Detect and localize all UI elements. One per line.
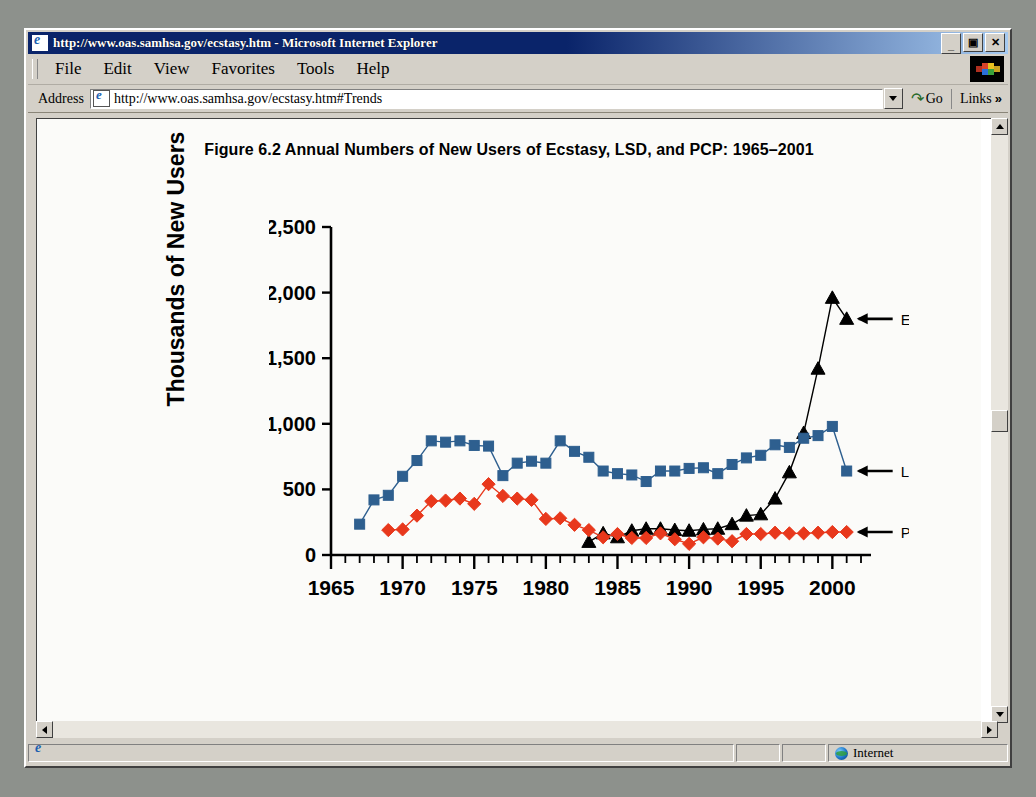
menu-drag-handle[interactable] <box>32 59 38 79</box>
menu-item-file[interactable]: File <box>44 57 92 81</box>
svg-text:2,000: 2,000 <box>269 282 316 304</box>
links-label: Links <box>960 91 992 107</box>
internet-explorer-icon <box>31 34 49 52</box>
chart-svg: 05001,0001,5002,0002,5001965197019751980… <box>269 219 909 619</box>
vertical-scroll-track[interactable] <box>991 135 1008 706</box>
svg-text:1,500: 1,500 <box>269 347 316 369</box>
y-axis-title: Thousands of New Users <box>163 119 190 419</box>
address-label: Address <box>28 91 90 107</box>
arrow-up-icon <box>996 124 1004 129</box>
go-label: Go <box>926 91 943 107</box>
window-title: http://www.oas.samhsa.gov/ecstasy.htm - … <box>53 35 941 51</box>
svg-text:1980: 1980 <box>523 576 570 599</box>
status-pane-3 <box>782 744 826 762</box>
page-viewport: Figure 6.2 Annual Numbers of New Users o… <box>36 118 998 723</box>
svg-text:500: 500 <box>283 478 316 500</box>
restore-button[interactable]: ▣ <box>963 33 983 52</box>
svg-text:1965: 1965 <box>308 576 355 599</box>
scroll-left-button[interactable] <box>36 721 53 738</box>
menu-item-tools[interactable]: Tools <box>286 57 346 81</box>
menu-item-view[interactable]: View <box>143 57 201 81</box>
svg-text:PCP: PCP <box>901 524 909 541</box>
svg-text:1970: 1970 <box>379 576 426 599</box>
status-bar: Internet <box>28 742 1008 764</box>
status-pane-2 <box>736 744 780 762</box>
arrow-down-icon <box>996 712 1004 717</box>
svg-text:2,500: 2,500 <box>269 219 316 238</box>
scroll-right-button[interactable] <box>981 721 998 738</box>
browser-logo-animation <box>970 56 1004 82</box>
chart-series-labels: EcstasyLSDPCP <box>857 311 909 541</box>
window-controls: _ ▣ ✕ <box>941 33 1005 54</box>
security-zone-label: Internet <box>853 745 893 761</box>
go-arrow-icon: ↷ <box>911 89 924 108</box>
menu-item-favorites[interactable]: Favorites <box>201 57 286 81</box>
svg-text:1975: 1975 <box>451 576 498 599</box>
minimize-button[interactable]: _ <box>941 33 961 54</box>
scroll-up-button[interactable] <box>991 118 1008 135</box>
address-dropdown-button[interactable] <box>884 88 903 109</box>
desktop-background: http://www.oas.samhsa.gov/ecstasy.htm - … <box>0 0 1036 797</box>
vertical-scroll-thumb[interactable] <box>991 410 1008 432</box>
links-button[interactable]: Links » <box>951 89 1008 109</box>
svg-text:1990: 1990 <box>666 576 713 599</box>
svg-text:2000: 2000 <box>809 576 856 599</box>
svg-text:1995: 1995 <box>737 576 784 599</box>
close-button[interactable]: ✕ <box>985 33 1005 52</box>
status-message-pane <box>28 744 734 762</box>
title-bar: http://www.oas.samhsa.gov/ecstasy.htm - … <box>28 32 1008 54</box>
figure-6-2: Figure 6.2 Annual Numbers of New Users o… <box>37 119 981 722</box>
svg-text:1,000: 1,000 <box>269 413 316 435</box>
svg-text:1985: 1985 <box>594 576 641 599</box>
chart-axes: 05001,0001,5002,0002,5001965197019751980… <box>269 219 871 599</box>
chevron-right-icon: » <box>995 91 1002 106</box>
globe-icon <box>835 747 848 760</box>
address-value: http://www.oas.samhsa.gov/ecstasy.htm#Tr… <box>114 91 382 107</box>
svg-text:0: 0 <box>305 544 316 566</box>
page-icon <box>93 90 110 107</box>
chart-series <box>355 291 854 551</box>
menu-item-help[interactable]: Help <box>345 57 400 81</box>
browser-window: http://www.oas.samhsa.gov/ecstasy.htm - … <box>24 28 1012 768</box>
menu-item-edit[interactable]: Edit <box>92 57 142 81</box>
web-page-content: Figure 6.2 Annual Numbers of New Users o… <box>37 119 981 722</box>
menu-bar: File Edit View Favorites Tools Help <box>28 54 1008 85</box>
go-button[interactable]: ↷ Go <box>903 89 951 108</box>
security-zone-pane: Internet <box>828 744 1008 762</box>
status-ie-icon <box>35 746 49 760</box>
horizontal-scrollbar[interactable] <box>36 721 998 738</box>
address-input[interactable]: http://www.oas.samhsa.gov/ecstasy.htm#Tr… <box>90 89 883 109</box>
arrow-left-icon <box>42 726 47 734</box>
chart-plot-area: 05001,0001,5002,0002,5001965197019751980… <box>269 219 909 619</box>
vertical-scrollbar[interactable] <box>991 118 1008 723</box>
arrow-right-icon <box>987 726 992 734</box>
chevron-down-icon <box>889 96 897 101</box>
svg-text:Ecstasy: Ecstasy <box>901 311 909 328</box>
address-bar: Address http://www.oas.samhsa.gov/ecstas… <box>28 85 1008 113</box>
svg-text:LSD: LSD <box>901 463 909 480</box>
